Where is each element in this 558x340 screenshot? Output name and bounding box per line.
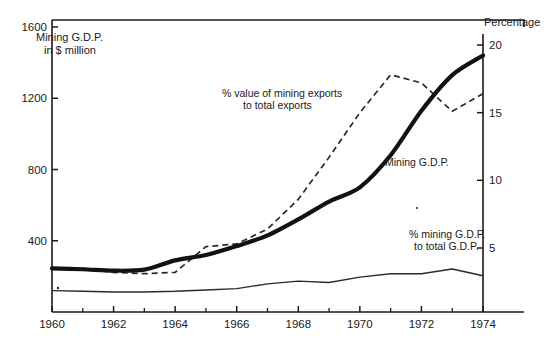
annotation-exports-line1: % value of mining exports [222,87,342,99]
annotation-share-line2: to total G.D.P. [414,240,479,252]
x-tick-label: 1964 [162,318,188,330]
x-tick-label: 1974 [470,318,496,330]
ink-speck-mark-2 [416,207,418,209]
chart-figure: 16001200800400 2015105 19601962196419661… [0,0,558,340]
annotation-mining-gdp-share: % mining G.D.P. to total G.D.P. [409,228,485,252]
chart-canvas: 16001200800400 2015105 19601962196419661… [0,0,558,340]
annotation-mining-exports: % value of mining exports to total expor… [222,87,342,111]
y-right-tick-label: 15 [489,107,502,119]
ink-speck-mark [57,287,59,289]
annotation-gdp-line1: Mining G.D.P. [385,156,449,168]
y-axis-left-title-line2: in $ million [44,44,96,56]
annotation-mining-gdp: Mining G.D.P. [385,156,449,168]
annotation-share-line1: % mining G.D.P. [409,228,485,240]
top-border-rule [52,20,524,27]
x-tick-label: 1972 [409,318,435,330]
y-right-tick-label: 10 [489,174,502,186]
y-right-tick-label: 20 [489,39,502,51]
y-axis-right-title: Percentage [484,16,540,28]
y-left-tick-label: 400 [28,235,47,247]
chart-frame [52,20,524,312]
y-left-tick-label: 1200 [21,92,47,104]
x-axis-ticks: 19601962196419661968197019721974 [39,306,496,330]
x-tick-label: 1970 [347,318,373,330]
y-right-tick-label: 5 [489,242,495,254]
x-tick-label: 1962 [101,318,127,330]
x-tick-label: 1960 [39,318,65,330]
y-axis-left-title-line1: Mining G.D.P. [36,31,103,43]
y-axis-right-ticks: 2015105 [477,39,502,254]
annotation-exports-line2: to total exports [243,99,312,111]
x-tick-label: 1966 [224,318,250,330]
x-tick-label: 1968 [285,318,311,330]
y-left-tick-label: 800 [28,164,47,176]
